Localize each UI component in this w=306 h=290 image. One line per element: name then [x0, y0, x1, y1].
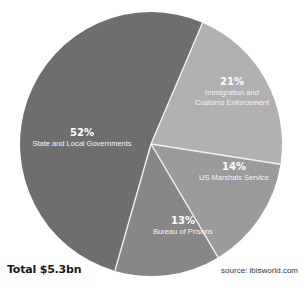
- slice-percent: 52%: [32, 127, 131, 139]
- slice-name: Customs Enforcement: [195, 98, 269, 108]
- slice-name: State and Local Governments: [32, 139, 131, 149]
- slice-label-state-local: 52% State and Local Governments: [32, 127, 131, 149]
- total-label: Total $5.3bn: [7, 263, 81, 276]
- slice-label-ice: 21% Immigration and Customs Enforcement: [195, 76, 269, 108]
- slice-percent: 21%: [195, 76, 269, 88]
- slice-name: US Marshals Service: [199, 173, 269, 183]
- slice-percent: 13%: [153, 215, 213, 227]
- slice-label-marshals: 14% US Marshals Service: [199, 161, 269, 183]
- slice-name: Bureau of Prisons: [153, 227, 213, 237]
- slice-percent: 14%: [199, 161, 269, 173]
- source-label: source: ibisworld.com: [221, 266, 298, 275]
- slice-label-prisons: 13% Bureau of Prisons: [153, 215, 213, 237]
- slice-name: Immigration and: [195, 88, 269, 98]
